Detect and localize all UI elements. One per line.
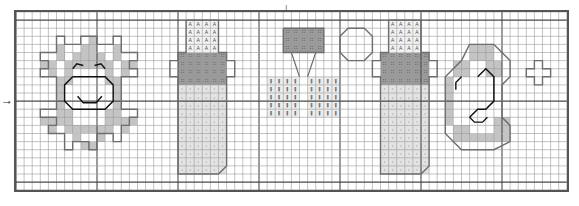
backstitch-line <box>78 96 102 102</box>
motif-outline <box>291 52 299 76</box>
motif-outline <box>283 28 323 52</box>
motif-outline <box>526 61 550 85</box>
backstitch-line <box>470 69 494 118</box>
backstitch-line <box>65 77 114 109</box>
backstitch-line <box>95 64 106 69</box>
motif-outline <box>340 28 372 60</box>
motif-outline <box>40 36 137 149</box>
backstitch-line <box>470 117 488 122</box>
center-row-arrow-icon: → <box>1 94 13 106</box>
backstitch-line <box>456 77 462 90</box>
motif-outline <box>170 20 235 174</box>
pattern-chart-page: ↓ → AAAAAAAAAAAAAAAA∷∷∷∷∷∷∷∷∷∷∷∷∷∷∷∷∷∷∷∷… <box>0 0 579 206</box>
backstitch-outline-layer <box>16 12 567 190</box>
motif-outline <box>445 44 510 149</box>
cross-stitch-grid[interactable]: AAAAAAAAAAAAAAAA∷∷∷∷∷∷∷∷∷∷∷∷∷∷∷∷∷∷∷∷∷∷∷∷… <box>14 10 569 192</box>
backstitch-line <box>73 64 84 69</box>
motif-outline <box>372 20 437 174</box>
motif-outline <box>308 52 316 76</box>
